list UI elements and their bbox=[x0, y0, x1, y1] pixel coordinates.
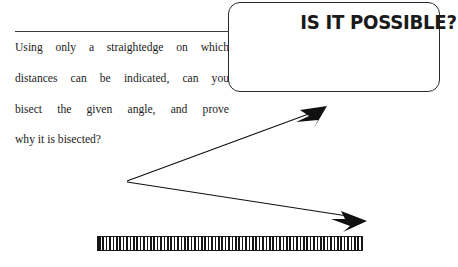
upper-ray-arrowhead-icon bbox=[296, 106, 327, 128]
problem-line-1: Using only a straightedge on which bbox=[15, 40, 229, 71]
problem-statement: Using only a straightedge on which dista… bbox=[15, 40, 229, 148]
problem-line-4: why it is bisected? bbox=[15, 132, 229, 147]
lower-ray-arrowhead-icon bbox=[331, 211, 367, 232]
problem-line-2: distances can be indicated, can you bbox=[15, 71, 229, 102]
problem-line-3: bisect the given angle, and prove bbox=[15, 102, 229, 133]
header-divider bbox=[15, 31, 229, 32]
page-title: IS IT POSSIBLE? bbox=[300, 11, 436, 34]
lower-ray-line bbox=[127, 182, 354, 217]
figure-page: IS IT POSSIBLE? Using only a straightedg… bbox=[0, 0, 458, 267]
marked-straightedge bbox=[97, 236, 363, 251]
